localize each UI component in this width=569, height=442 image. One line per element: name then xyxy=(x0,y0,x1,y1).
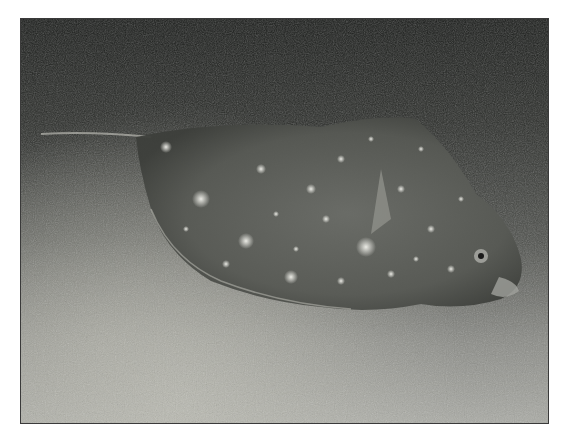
flatfish-photo xyxy=(20,18,549,424)
photo-scene xyxy=(21,19,549,424)
cut-off-caption xyxy=(0,430,569,442)
fish-pupil xyxy=(478,253,484,259)
